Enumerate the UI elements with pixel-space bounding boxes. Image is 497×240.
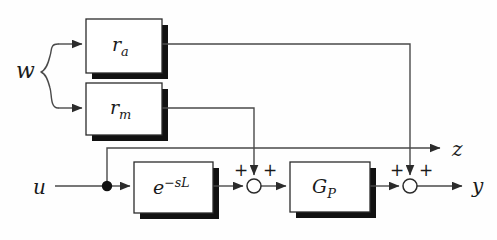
input-label-u: u bbox=[33, 177, 46, 197]
ra-label-main: r bbox=[112, 33, 121, 55]
second-summing-junction[interactable] bbox=[403, 179, 417, 193]
wire-ra-out-to-sum2 bbox=[162, 44, 410, 175]
output-label-y: y bbox=[472, 176, 483, 196]
input-branch-dot bbox=[102, 181, 112, 191]
first-summing-junction[interactable] bbox=[247, 179, 261, 193]
sum1-plus-left: + bbox=[234, 162, 248, 179]
delay-block-label: e−sL bbox=[153, 177, 190, 197]
rm-block-label: rm bbox=[110, 98, 131, 122]
rm-label-sub: m bbox=[119, 107, 131, 122]
gp-label-sub: P bbox=[327, 186, 336, 201]
output-label-z: z bbox=[452, 139, 463, 159]
disturbance-label-w: w bbox=[16, 60, 35, 82]
diagram-canvas bbox=[0, 0, 497, 240]
sum2-plus-left: + bbox=[390, 162, 404, 179]
delay-label-main: e bbox=[153, 176, 164, 198]
w-brace bbox=[41, 44, 58, 108]
ra-block-label: ra bbox=[112, 35, 129, 59]
gp-block-label: GP bbox=[312, 177, 336, 201]
delay-label-exponent: −sL bbox=[164, 175, 189, 190]
rm-label-main: r bbox=[110, 96, 119, 118]
gp-label-main: G bbox=[312, 175, 327, 197]
block-diagram-figure: w ra rm e−sL GP u z y + + + + bbox=[0, 0, 497, 240]
ra-label-sub: a bbox=[121, 44, 129, 59]
sum2-plus-right: + bbox=[419, 162, 433, 179]
sum1-plus-right: + bbox=[263, 162, 277, 179]
